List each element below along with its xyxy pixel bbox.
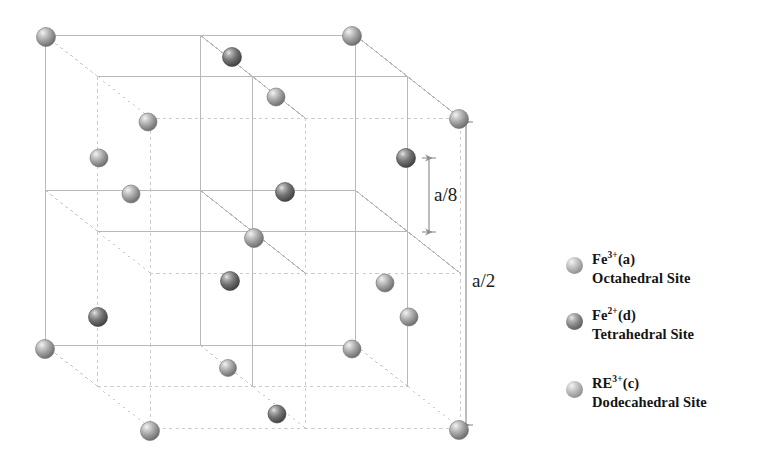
atom-sphere	[376, 274, 394, 292]
atom-sphere	[267, 88, 285, 106]
legend-item-text: Fe2+(d) Tetrahedral Site	[592, 306, 694, 343]
dimension-label-a2: a/2	[472, 270, 495, 292]
legend-site-label: Dodecahedral Site	[592, 394, 707, 410]
atom-sphere	[450, 110, 469, 129]
legend: Fe3+(a) Octahedral Site Fe2+(d) Tetrahed…	[560, 240, 765, 425]
atom-sphere	[397, 149, 416, 168]
atom-sphere	[141, 422, 160, 441]
atom-sphere	[245, 229, 264, 248]
legend-item-re3-dodecahedral[interactable]: RE3+(c) Dodecahedral Site	[566, 374, 707, 411]
atom-sphere	[221, 272, 240, 291]
atom-sphere	[268, 405, 286, 423]
dimension-arrows	[422, 122, 473, 425]
legend-item-fe3-octahedral[interactable]: Fe3+(a) Octahedral Site	[566, 250, 691, 287]
legend-item-text: RE3+(c) Dodecahedral Site	[592, 374, 707, 411]
atom-sphere	[220, 360, 237, 377]
legend-sphere-icon	[566, 313, 583, 330]
legend-item-text: Fe3+(a) Octahedral Site	[592, 250, 691, 287]
dimension-label-a8: a/8	[434, 184, 457, 206]
legend-ion-label: Fe3+(a)	[592, 251, 635, 267]
legend-ion-label: Fe2+(d)	[592, 307, 636, 323]
atom-sphere	[37, 28, 56, 47]
legend-sphere-icon	[566, 381, 583, 398]
atom-sphere	[276, 183, 295, 202]
atom-sphere	[343, 27, 362, 46]
atom-sphere	[400, 308, 418, 326]
legend-item-fe2-tetrahedral[interactable]: Fe2+(d) Tetrahedral Site	[566, 306, 694, 343]
figure-canvas: a/8 a/2 Fe3+(a) Octahedral Site Fe2+(d) …	[0, 0, 769, 468]
legend-sphere-icon	[566, 257, 583, 274]
atom-sphere	[36, 340, 55, 359]
atom-sphere	[223, 48, 242, 67]
atom-sphere	[139, 113, 157, 131]
atom-sphere	[450, 421, 469, 440]
legend-ion-label: RE3+(c)	[592, 375, 639, 391]
atom-sphere	[89, 308, 108, 327]
atom-sphere	[343, 340, 361, 358]
legend-site-label: Tetrahedral Site	[592, 326, 694, 342]
atom-sphere	[90, 149, 108, 167]
atom-sphere	[122, 185, 140, 203]
legend-site-label: Octahedral Site	[592, 270, 691, 286]
